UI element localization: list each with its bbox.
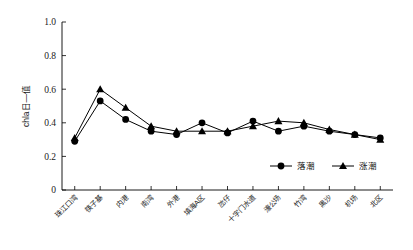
triangle-marker-icon [96, 85, 104, 92]
x-tick-label: 竹湾 [292, 193, 308, 209]
chart-container: 00.20.40.60.81.0chla日—值珠江口湾筷子基内港南湾外港填海A区… [0, 0, 413, 250]
y-axis-title: chla日—值 [21, 85, 31, 127]
y-tick-label: 0 [51, 185, 56, 195]
x-tick-label: 筷子基 [83, 193, 104, 214]
triangle-marker-icon [122, 104, 130, 111]
legend-entry[interactable]: 落潮 [270, 161, 315, 171]
circle-marker-icon [122, 116, 129, 123]
x-tick-label: 外港 [165, 192, 182, 209]
legend-label: 涨潮 [359, 161, 377, 171]
y-tick-label: 0.6 [44, 85, 56, 95]
legend-entry[interactable]: 涨潮 [332, 161, 377, 171]
x-tick-label: 北区 [368, 193, 384, 209]
x-tick-label: 南湾 [139, 193, 155, 209]
legend-label: 落潮 [297, 161, 315, 171]
y-tick-label: 0.4 [44, 118, 56, 128]
x-tick-label: 黑沙 [317, 193, 333, 209]
line-chart: 00.20.40.60.81.0chla日—值珠江口湾筷子基内港南湾外港填海A区… [0, 0, 413, 250]
y-tick-label: 1.0 [44, 17, 56, 27]
circle-marker-icon [97, 98, 104, 105]
y-tick-label: 0.8 [44, 51, 56, 61]
x-tick-label: 内港 [114, 192, 131, 209]
triangle-marker-icon [147, 122, 155, 129]
y-axis: 00.20.40.60.81.0 [44, 17, 66, 195]
x-tick-label: 濠公场 [262, 193, 283, 214]
circle-marker-icon [275, 128, 282, 135]
legend: 落潮涨潮 [270, 161, 377, 171]
circle-marker-icon [199, 119, 206, 126]
x-tick-label: 珠江口湾 [53, 193, 79, 219]
circle-marker-icon [278, 163, 285, 170]
x-tick-label: 十字门水道 [226, 193, 257, 224]
series-ebb [71, 98, 383, 145]
triangle-marker-icon [274, 117, 282, 124]
x-tick-label: 填海A区 [182, 193, 207, 218]
x-axis: 珠江口湾筷子基内港南湾外港填海A区氹仔十字门水道濠公场竹湾黑沙机场北区 [53, 186, 385, 224]
y-axis-title-text: chla日—值 [21, 85, 31, 127]
x-tick-label: 机场 [343, 193, 359, 209]
x-tick-label: 氹仔 [216, 193, 232, 209]
y-tick-label: 0.2 [44, 152, 56, 162]
